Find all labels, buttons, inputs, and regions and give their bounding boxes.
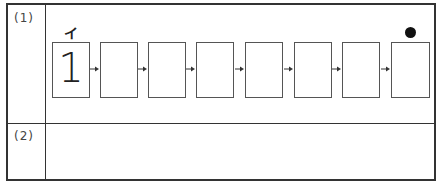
sequence-box-7[interactable] — [342, 42, 380, 98]
arrow-right-icon — [381, 66, 390, 72]
sequence-box-3[interactable] — [148, 42, 186, 98]
first-box-annotation: イ — [64, 22, 78, 42]
arrow-right-icon — [284, 66, 293, 72]
sequence-box-5[interactable] — [245, 42, 283, 98]
arrow-right-icon — [90, 66, 99, 72]
arrow-right-icon — [332, 66, 341, 72]
sequence-box-8[interactable] — [391, 42, 430, 98]
arrow-right-icon — [138, 66, 147, 72]
column-divider — [45, 5, 46, 179]
row-divider — [8, 123, 434, 124]
sequence-box-2[interactable] — [100, 42, 138, 98]
sequence-box-1-value: 1 — [53, 45, 89, 91]
arrow-right-icon — [186, 66, 195, 72]
arrow-right-icon — [235, 66, 244, 72]
sequence-box-1[interactable]: 1 — [52, 42, 90, 98]
end-marker-dot-icon — [405, 27, 416, 38]
sequence-box-6[interactable] — [294, 42, 332, 98]
sequence-box-4[interactable] — [196, 42, 234, 98]
question-1-label: (1) — [14, 11, 34, 25]
question-2-label: (2) — [14, 129, 34, 143]
